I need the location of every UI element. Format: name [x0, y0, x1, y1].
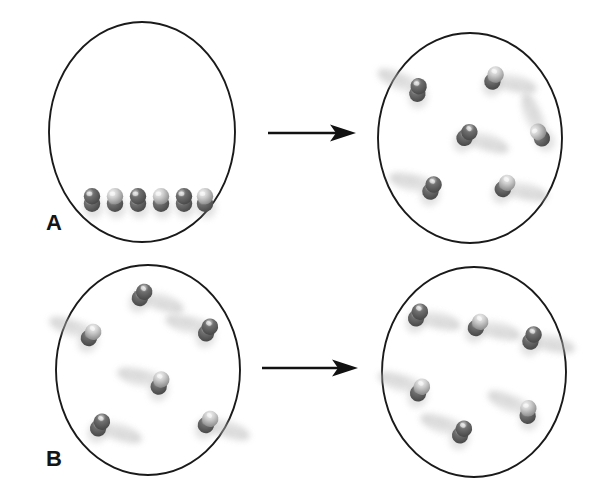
molecular-state-diagram: AB [0, 0, 608, 491]
transition-arrow-b [0, 0, 608, 491]
